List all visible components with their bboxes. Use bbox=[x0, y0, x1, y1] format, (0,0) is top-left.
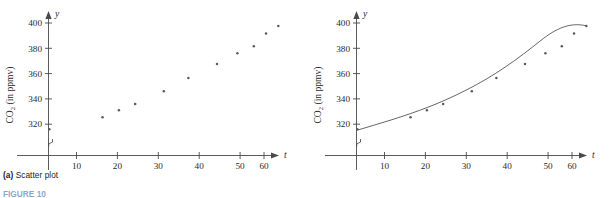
data-point bbox=[495, 77, 498, 80]
scatter-points-a bbox=[48, 25, 279, 131]
y-tick-label: 360 bbox=[336, 69, 350, 79]
y-axis-title-main: CO bbox=[4, 110, 15, 123]
x-tick-label: 30 bbox=[462, 161, 472, 170]
y-tick-label: 400 bbox=[28, 18, 42, 28]
y-axis-variable-label: y bbox=[54, 8, 60, 19]
y-tick-label: 360 bbox=[28, 69, 42, 79]
data-point bbox=[426, 109, 429, 112]
x-tick-label: 40 bbox=[195, 161, 205, 170]
data-point bbox=[544, 52, 547, 55]
x-axis-variable-label: t bbox=[592, 149, 595, 160]
y-axis-title-rest: (in ppmv) bbox=[4, 66, 16, 107]
data-point bbox=[524, 63, 527, 66]
x-axis-variable-label: t bbox=[284, 149, 287, 160]
figure-container: 400 380 360 340 320 10 20 30 40 50 60 y … bbox=[0, 0, 615, 198]
panel-a-scatter-plot: 400 380 360 340 320 10 20 30 40 50 60 y … bbox=[0, 0, 307, 198]
caption-panel-a: (a) Scatter plot bbox=[3, 170, 58, 180]
svg-text:CO2 (in ppmv): CO2 (in ppmv) bbox=[312, 66, 324, 123]
panel-b-plot-svg: 400 380 360 340 320 10 20 30 40 50 60 y … bbox=[308, 0, 615, 170]
data-point bbox=[163, 90, 166, 93]
data-point bbox=[471, 90, 474, 93]
svg-text:CO2 (in ppmv): CO2 (in ppmv) bbox=[4, 66, 16, 123]
y-axis-title-b: CO2 (in ppmv) bbox=[312, 66, 324, 123]
y-tick-label: 340 bbox=[28, 94, 42, 104]
x-tick-label: 50 bbox=[236, 161, 246, 170]
figure-number-tag: FIGURE 10 bbox=[3, 189, 46, 198]
y-tick-label: 400 bbox=[336, 18, 350, 28]
caption-a-text: Scatter plot bbox=[16, 170, 59, 180]
y-axis-variable-label: y bbox=[362, 8, 368, 19]
x-tick-label: 10 bbox=[72, 161, 82, 170]
y-tick-label: 320 bbox=[336, 119, 350, 129]
x-tick-label: 60 bbox=[567, 161, 577, 170]
x-tick-label: 30 bbox=[154, 161, 164, 170]
data-point bbox=[216, 63, 219, 66]
data-point bbox=[236, 52, 239, 55]
data-point bbox=[356, 128, 359, 131]
x-tick-label: 20 bbox=[421, 161, 431, 170]
y-axis-title-main: CO bbox=[312, 110, 323, 123]
x-tick-label: 10 bbox=[380, 161, 390, 170]
data-point bbox=[118, 109, 121, 112]
data-point bbox=[561, 45, 564, 48]
data-point bbox=[101, 116, 104, 119]
y-axis-title-a: CO2 (in ppmv) bbox=[4, 66, 16, 123]
data-point bbox=[442, 103, 445, 106]
x-tick-label: 20 bbox=[113, 161, 123, 170]
caption-a-label: (a) bbox=[3, 170, 13, 180]
data-point bbox=[409, 116, 412, 119]
data-point bbox=[277, 25, 280, 28]
panel-a-plot-svg: 400 380 360 340 320 10 20 30 40 50 60 y … bbox=[0, 0, 307, 170]
data-point bbox=[585, 25, 588, 28]
data-point bbox=[573, 32, 576, 35]
y-tick-label: 380 bbox=[28, 44, 42, 54]
y-tick-label: 320 bbox=[28, 119, 42, 129]
data-point bbox=[134, 103, 137, 106]
fitted-curve bbox=[357, 25, 586, 130]
y-tick-label: 340 bbox=[336, 94, 350, 104]
data-point bbox=[265, 32, 268, 35]
x-tick-label: 40 bbox=[503, 161, 513, 170]
y-axis-title-rest: (in ppmv) bbox=[312, 66, 324, 107]
data-point bbox=[48, 128, 51, 131]
y-tick-label: 380 bbox=[336, 44, 350, 54]
scatter-points-b bbox=[356, 25, 588, 131]
panel-b-scatter-with-curve: 400 380 360 340 320 10 20 30 40 50 60 y … bbox=[308, 0, 615, 198]
data-point bbox=[187, 77, 190, 80]
data-point bbox=[253, 45, 256, 48]
x-tick-label: 50 bbox=[544, 161, 554, 170]
x-tick-label: 60 bbox=[259, 161, 269, 170]
